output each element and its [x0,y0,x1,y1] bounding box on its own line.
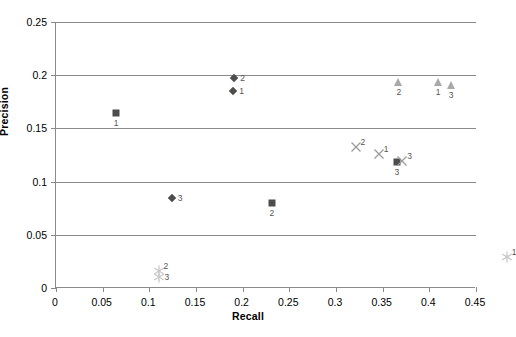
x-tick-label: 0.35 [359,297,405,308]
gridline [56,235,476,236]
y-tick-label: 0 [1,283,47,294]
data-point-label: 2 [270,209,275,218]
y-tick-mark [51,182,56,183]
gridline [56,75,476,76]
data-point-square [112,110,119,117]
x-tick-label: 0.25 [265,297,311,308]
y-tick-mark [51,22,56,23]
data-point-triangle [447,81,455,89]
data-point-label: 2 [361,138,366,147]
data-point-label: 1 [239,87,244,96]
x-tick-label: 0 [32,297,78,308]
x-tick-mark [149,287,150,292]
data-point-square [268,199,275,206]
y-tick-label: 0.15 [1,123,47,134]
y-tick-label: 0.1 [1,177,47,188]
x-tick-mark [56,287,57,292]
x-tick-mark [243,287,244,292]
data-point-triangle [394,78,402,86]
x-tick-mark [336,287,337,292]
x-tick-mark [476,287,477,292]
y-tick-label: 0.05 [1,230,47,241]
data-point-label: 3 [178,194,183,203]
data-point-label: 2 [396,88,401,97]
data-point-label: 1 [384,145,389,154]
x-tick-label: 0.1 [125,297,171,308]
x-tick-mark [196,287,197,292]
y-tick-mark [51,235,56,236]
data-point-label: 3 [395,168,400,177]
data-point-label: 1 [512,248,516,257]
data-point-x [397,156,408,167]
data-point-diamond [229,87,237,95]
gridline [56,182,476,183]
data-point-diamond [167,194,175,202]
data-point-label: 2 [240,74,245,83]
x-tick-label: 0.4 [405,297,451,308]
x-tick-mark [429,287,430,292]
y-tick-mark [51,128,56,129]
x-tick-label: 0.15 [172,297,218,308]
x-tick-mark [383,287,384,292]
x-tick-label: 0.05 [79,297,125,308]
data-point-x [373,148,384,159]
x-tick-label: 0.2 [219,297,265,308]
gridline [56,22,476,23]
x-axis-title: Recall [0,310,496,322]
y-tick-mark [51,75,56,76]
data-point-triangle [434,78,442,86]
data-point-x [350,142,361,153]
data-point-label: 3 [165,273,170,282]
plot-area: 213123213213231 [55,22,475,288]
data-point-label: 2 [164,262,169,271]
x-tick-label: 0.45 [452,297,498,308]
data-point-label: 1 [436,88,441,97]
data-point-label: 3 [449,91,454,100]
x-tick-label: 0.3 [312,297,358,308]
y-tick-label: 0.25 [1,17,47,28]
gridline [56,128,476,129]
x-tick-mark [289,287,290,292]
x-tick-mark [103,287,104,292]
data-point-label: 3 [407,152,412,161]
data-point-label: 1 [114,119,119,128]
data-point-star [152,271,165,284]
y-tick-label: 0.2 [1,70,47,81]
